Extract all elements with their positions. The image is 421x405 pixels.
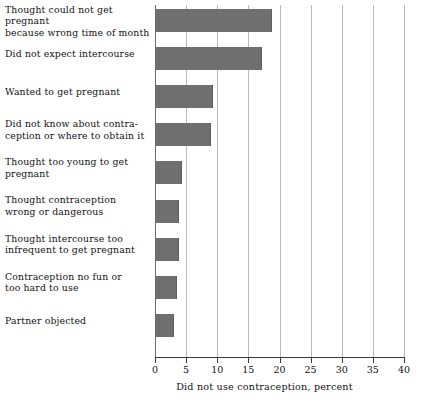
category-label-4: Thought too young to get pregnant	[5, 156, 151, 179]
bar-8	[156, 314, 174, 337]
category-label-5: Thought contraception wrong or dangerous	[5, 194, 151, 217]
x-tick-0	[155, 358, 156, 363]
bar-1	[156, 47, 262, 70]
x-tick-label-15: 15	[233, 364, 263, 376]
category-label-7: Contraception no fun or too hard to use	[5, 271, 151, 294]
category-label-6: Thought intercourse too infrequent to ge…	[5, 233, 151, 256]
x-tick-label-35: 35	[358, 364, 388, 376]
x-tick-label-20: 20	[265, 364, 295, 376]
gridline-25	[311, 5, 312, 357]
bar-0	[156, 9, 272, 32]
x-tick-label-25: 25	[296, 364, 326, 376]
x-axis-title: Did not use contraception, percent	[0, 381, 421, 392]
x-tick-30	[342, 358, 343, 363]
x-tick-label-10: 10	[202, 364, 232, 376]
bar-5	[156, 200, 179, 223]
bar-2	[156, 85, 213, 108]
bar-4	[156, 161, 182, 184]
gridline-35	[373, 5, 374, 357]
x-tick-label-40: 40	[389, 364, 419, 376]
x-tick-15	[248, 358, 249, 363]
category-labels: Thought could not get pregnant because w…	[0, 0, 150, 360]
x-tick-10	[217, 358, 218, 363]
x-tick-label-0: 0	[140, 364, 170, 376]
bar-chart: Thought could not get pregnant because w…	[0, 0, 421, 405]
gridline-20	[280, 5, 281, 357]
x-tick-20	[280, 358, 281, 363]
gridline-40	[404, 5, 405, 357]
bar-6	[156, 238, 179, 261]
x-tick-5	[186, 358, 187, 363]
x-tick-25	[311, 358, 312, 363]
x-axis-title-text: Did not use contraception, percent	[68, 381, 353, 392]
category-label-0: Thought could not get pregnant because w…	[5, 4, 151, 39]
category-label-3: Did not know about contra- ception or wh…	[5, 118, 151, 141]
x-tick-label-5: 5	[171, 364, 201, 376]
plot-area	[155, 5, 404, 357]
category-label-2: Wanted to get pregnant	[5, 86, 151, 98]
x-tick-35	[373, 358, 374, 363]
x-tick-label-30: 30	[327, 364, 357, 376]
bar-7	[156, 276, 177, 299]
bar-3	[156, 123, 211, 146]
category-label-1: Did not expect intercourse	[5, 48, 151, 60]
x-tick-40	[404, 358, 405, 363]
category-label-8: Partner objected	[5, 315, 151, 327]
gridline-30	[342, 5, 343, 357]
